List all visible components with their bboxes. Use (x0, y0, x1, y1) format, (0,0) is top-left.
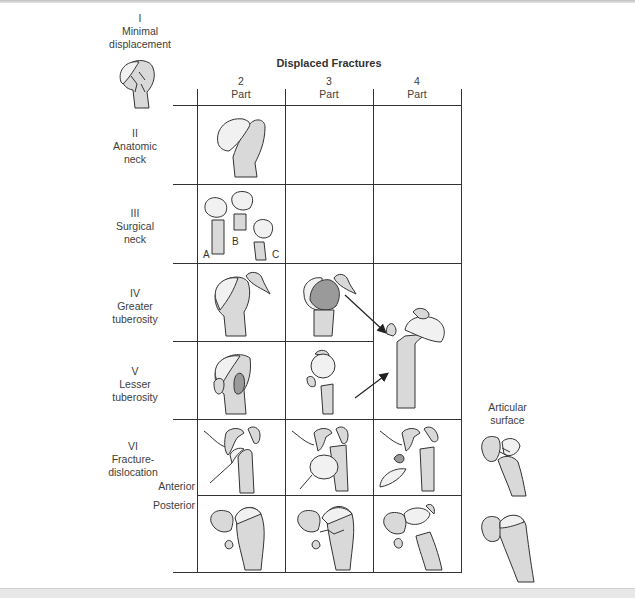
anatomic-neck-2part-illustration (215, 115, 270, 177)
minimal-displacement-bone-illustration (115, 58, 165, 108)
fracture-dislocation-posterior-3part-illustration (292, 500, 367, 570)
category-line1: Anatomic (95, 140, 175, 153)
category-line1: Fracture- (88, 453, 178, 466)
column-number: 3 (285, 75, 373, 88)
grid-line-header (173, 105, 462, 106)
category-v-label: V Lesser tuberosity (95, 365, 175, 404)
category-line1: Surgical (95, 220, 175, 233)
side-label-line2: surface (470, 414, 545, 427)
category-line1: Greater (95, 300, 175, 313)
fracture-dislocation-anterior-3part-illustration (290, 423, 370, 493)
fracture-dislocation-posterior-4part-illustration (380, 500, 455, 570)
category-line2: displacement (95, 38, 185, 51)
variant-a-label: A (203, 249, 210, 260)
grid-col-line-2 (285, 89, 286, 573)
figure-title: Displaced Fractures (197, 57, 461, 69)
grid-line-anterior-posterior (197, 495, 462, 496)
category-numeral: V (95, 365, 175, 378)
category-numeral: VI (88, 440, 178, 453)
lesser-tuberosity-3part-illustration (305, 348, 355, 414)
side-label-line1: Articular (470, 401, 545, 414)
grid-line-row2 (173, 184, 462, 185)
category-line2: tuberosity (95, 391, 175, 404)
arrow-from-lesser-tuberosity-icon (355, 374, 387, 398)
column-header-4-part: 4 Part (373, 75, 461, 101)
surgical-neck-2part-illustration (202, 190, 282, 262)
category-line2: neck (95, 233, 175, 246)
category-line1: Lesser (95, 378, 175, 391)
column-header-2-part: 2 Part (197, 75, 285, 101)
fracture-dislocation-anterior-2part-illustration (202, 423, 282, 493)
arrow-from-greater-tuberosity-icon (345, 295, 385, 332)
category-vi-label: VI Fracture- dislocation (88, 440, 178, 479)
grid-line-bottom (173, 572, 462, 573)
top-border (0, 0, 635, 3)
category-numeral: II (95, 127, 175, 140)
category-line2: neck (95, 153, 175, 166)
category-line2: dislocation (88, 466, 178, 479)
subrow-anterior-label: Anterior (140, 480, 195, 493)
column-label: Part (197, 88, 285, 101)
greater-tuberosity-2part-illustration (212, 270, 272, 336)
category-line2: tuberosity (95, 313, 175, 326)
category-numeral: IV (95, 287, 175, 300)
category-iv-label: IV Greater tuberosity (95, 287, 175, 326)
variant-c-label: C (272, 249, 279, 260)
column-number: 4 (373, 75, 461, 88)
articular-surface-label: Articular surface (470, 401, 545, 427)
category-numeral: III (95, 207, 175, 220)
category-ii-label: II Anatomic neck (95, 127, 175, 166)
category-line1: Minimal (95, 25, 185, 38)
subrow-posterior-label: Posterior (130, 499, 195, 512)
fracture-dislocation-anterior-4part-illustration (378, 423, 458, 493)
grid-line-row3 (173, 263, 462, 264)
lesser-tuberosity-2part-illustration (212, 348, 272, 414)
fracture-dislocation-posterior-2part-illustration (205, 500, 280, 570)
category-numeral: I (95, 12, 185, 25)
bottom-border-strip (0, 588, 635, 598)
articular-surface-posterior-illustration (478, 508, 543, 586)
column-number: 2 (197, 75, 285, 88)
category-i-label: I Minimal displacement (95, 12, 185, 51)
variant-b-label: B (232, 236, 239, 247)
column-label: Part (373, 88, 461, 101)
column-label: Part (285, 88, 373, 101)
category-iii-label: III Surgical neck (95, 207, 175, 246)
grid-col-line-4 (461, 89, 462, 573)
grid-col-line-1 (197, 89, 198, 573)
column-header-3-part: 3 Part (285, 75, 373, 101)
articular-surface-anterior-illustration (478, 430, 538, 500)
